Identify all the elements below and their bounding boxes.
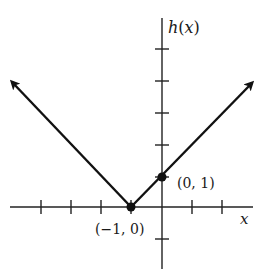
graph-canvas: h(x) x (0, 1) (−1, 0) xyxy=(0,0,258,269)
vertex-point xyxy=(127,203,136,212)
y-intercept-point xyxy=(158,173,167,182)
graph-left-ray xyxy=(12,82,131,207)
intercept-label: (0, 1) xyxy=(177,175,215,191)
x-axis-label: x xyxy=(240,210,249,228)
vertex-label: (−1, 0) xyxy=(95,221,144,237)
y-axis-label: h(x) xyxy=(168,18,200,37)
